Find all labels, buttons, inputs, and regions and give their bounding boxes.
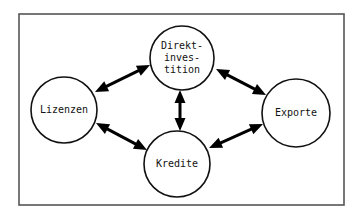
node-label: Exporte bbox=[275, 107, 317, 118]
arrow-kredite-exporte bbox=[209, 124, 263, 148]
arrow-direktinvestition-exporte bbox=[216, 69, 266, 95]
arrow-direktinvestition-kredite bbox=[175, 90, 186, 131]
node-label: Kredite bbox=[156, 158, 198, 169]
arrow-lizenzen-direktinvestition bbox=[95, 65, 150, 92]
node-exporte: Exporte bbox=[262, 79, 330, 147]
node-kredite: Kredite bbox=[144, 131, 210, 197]
node-direktinvestition: Direkt-inves-tition bbox=[150, 26, 214, 90]
arrow-shaft bbox=[105, 70, 140, 87]
node-label: tition bbox=[164, 64, 200, 75]
arrowhead-start-icon bbox=[175, 90, 186, 103]
node-label: Direkt- bbox=[161, 40, 203, 51]
diagram-canvas: Direkt-inves-titionLizenzenExporteKredit… bbox=[0, 0, 361, 220]
node-label: inves- bbox=[164, 52, 200, 63]
arrow-lizenzen-kredite bbox=[96, 123, 147, 150]
arrow-shaft bbox=[226, 74, 256, 90]
arrow-shaft bbox=[106, 128, 138, 145]
arrowhead-end-icon bbox=[175, 118, 186, 131]
arrow-shaft bbox=[219, 128, 253, 143]
node-lizenzen: Lizenzen bbox=[31, 77, 97, 143]
node-label: Lizenzen bbox=[40, 104, 88, 115]
